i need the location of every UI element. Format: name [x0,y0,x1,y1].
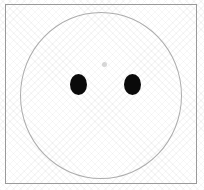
left-dot [70,74,87,95]
faint-center-smudge [102,62,107,67]
large-circle-outline [20,12,182,179]
figure-canvas: two black dots inside a circle outline [0,0,204,190]
right-dot [124,74,141,95]
